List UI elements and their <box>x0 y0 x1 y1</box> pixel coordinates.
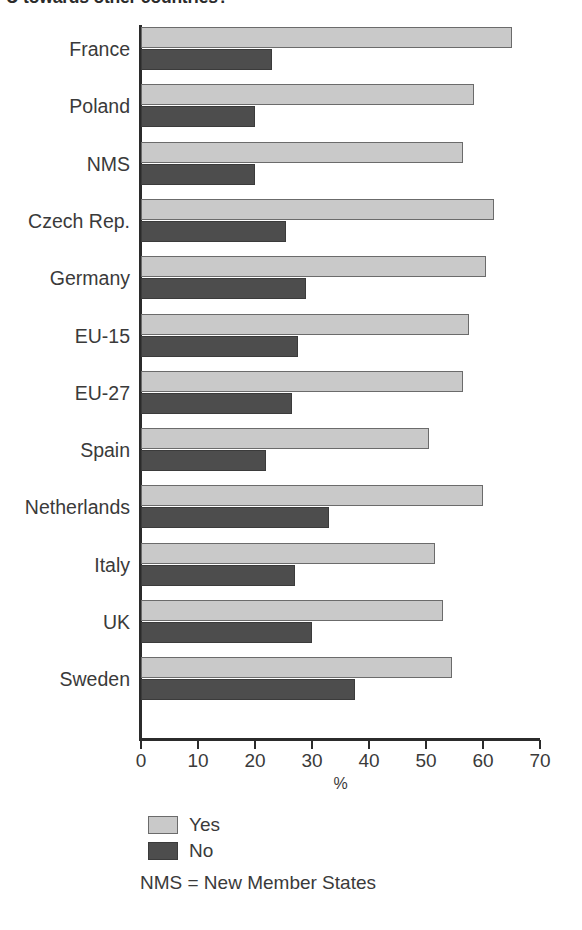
bar-no-nms <box>141 164 255 185</box>
x-tick-mark-0 <box>140 740 142 749</box>
chart-category-row: Germany <box>0 254 582 311</box>
chart-category-row: EU-27 <box>0 369 582 426</box>
bar-no-eu-15 <box>141 336 298 357</box>
bar-no-netherlands <box>141 507 329 528</box>
chart-category-row: Netherlands <box>0 483 582 540</box>
category-label-sweden: Sweden <box>0 668 130 691</box>
bar-yes-czech-rep <box>141 199 494 220</box>
category-label-germany: Germany <box>0 267 130 290</box>
legend-label-yes: Yes <box>189 814 220 836</box>
chart-category-row: Sweden <box>0 655 582 712</box>
legend-footnote: NMS = New Member States <box>140 872 376 894</box>
x-axis-title: % <box>141 775 540 793</box>
legend-item-no: No <box>148 838 220 864</box>
bar-yes-netherlands <box>141 485 483 506</box>
x-tick-label-60: 60 <box>453 750 513 772</box>
bar-yes-france <box>141 27 512 48</box>
chart-category-row: Spain <box>0 426 582 483</box>
bar-yes-nms <box>141 142 463 163</box>
chart-category-row: EU-15 <box>0 312 582 369</box>
category-label-uk: UK <box>0 611 130 634</box>
bar-no-sweden <box>141 679 355 700</box>
bar-no-czech-rep <box>141 221 286 242</box>
category-label-netherlands: Netherlands <box>0 496 130 519</box>
chart-category-row: UK <box>0 598 582 655</box>
bar-yes-spain <box>141 428 429 449</box>
x-tick-label-70: 70 <box>510 750 570 772</box>
bar-no-uk <box>141 622 312 643</box>
category-label-eu-15: EU-15 <box>0 325 130 348</box>
chart-category-row: Italy <box>0 541 582 598</box>
x-tick-mark-20 <box>254 740 256 749</box>
x-tick-mark-10 <box>197 740 199 749</box>
bar-yes-uk <box>141 600 443 621</box>
category-label-spain: Spain <box>0 439 130 462</box>
bar-no-germany <box>141 278 306 299</box>
chart-category-row: NMS <box>0 140 582 197</box>
bar-no-italy <box>141 565 295 586</box>
chart-category-row: Poland <box>0 82 582 139</box>
x-tick-mark-60 <box>482 740 484 749</box>
x-tick-mark-30 <box>311 740 313 749</box>
x-tick-label-40: 40 <box>339 750 399 772</box>
x-tick-label-50: 50 <box>396 750 456 772</box>
category-label-france: France <box>0 38 130 61</box>
bar-no-france <box>141 49 272 70</box>
x-tick-label-30: 30 <box>282 750 342 772</box>
chart-legend: Yes No <box>148 812 220 864</box>
legend-swatch-yes-icon <box>148 816 178 834</box>
bar-yes-italy <box>141 543 435 564</box>
legend-swatch-no-icon <box>148 842 178 860</box>
bar-yes-eu-27 <box>141 371 463 392</box>
bar-no-spain <box>141 450 266 471</box>
page-title: U towards other countries? <box>0 0 582 13</box>
legend-label-no: No <box>189 840 213 862</box>
bar-no-poland <box>141 106 255 127</box>
bar-yes-poland <box>141 84 474 105</box>
bar-yes-germany <box>141 256 486 277</box>
x-axis-line <box>139 738 540 741</box>
category-label-nms: NMS <box>0 153 130 176</box>
chart-category-row: France <box>0 25 582 82</box>
bar-no-eu-27 <box>141 393 292 414</box>
chart-category-row: Czech Rep. <box>0 197 582 254</box>
legend-item-yes: Yes <box>148 812 220 838</box>
category-label-czech-rep: Czech Rep. <box>0 210 130 233</box>
category-label-italy: Italy <box>0 554 130 577</box>
x-tick-mark-40 <box>368 740 370 749</box>
category-label-eu-27: EU-27 <box>0 382 130 405</box>
bar-yes-sweden <box>141 657 452 678</box>
x-tick-mark-70 <box>539 740 541 749</box>
bar-yes-eu-15 <box>141 314 469 335</box>
x-tick-label-20: 20 <box>225 750 285 772</box>
x-tick-label-0: 0 <box>111 750 171 772</box>
x-tick-label-10: 10 <box>168 750 228 772</box>
x-tick-mark-50 <box>425 740 427 749</box>
category-label-poland: Poland <box>0 95 130 118</box>
